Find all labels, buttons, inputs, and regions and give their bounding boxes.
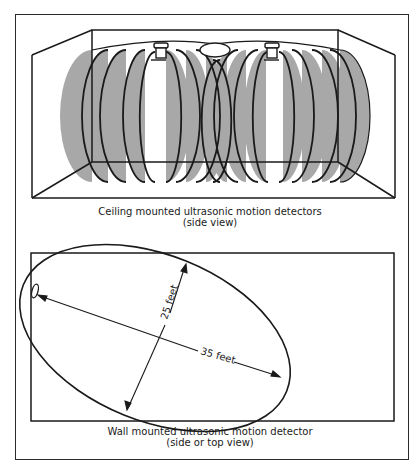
wall-caption: Wall mounted ultrasonic motion detector … [0, 426, 420, 448]
wall-detector-diagram: 25 feet 35 feet [0, 0, 420, 471]
width-dimension [125, 264, 187, 410]
wall-caption-subtitle: (side or top view) [0, 437, 420, 448]
length-dimension [38, 295, 280, 377]
width-label: 25 feet [158, 283, 180, 320]
length-label: 35 feet [199, 345, 236, 365]
wall-caption-title: Wall mounted ultrasonic motion detector [0, 426, 420, 437]
